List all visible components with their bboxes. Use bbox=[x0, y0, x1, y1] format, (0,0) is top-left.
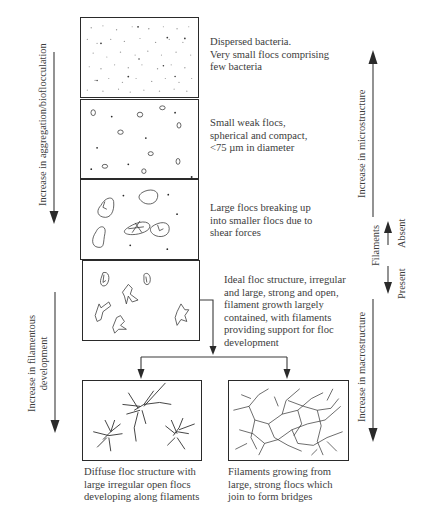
label-present: Present bbox=[396, 268, 408, 299]
label-filaments: Filaments bbox=[370, 225, 382, 266]
label-macrostructure: Increase in macrostructure bbox=[356, 312, 368, 422]
stage-box-small-weak-flocs bbox=[80, 99, 199, 179]
ideal-flocs-illustration bbox=[83, 261, 199, 340]
stage-description-filament-bridging: Filaments growing from large, strong flo… bbox=[228, 466, 333, 504]
stage-box-large-flocs-breaking bbox=[80, 179, 199, 260]
stage-description-ideal-floc: Ideal floc structure, irregular and larg… bbox=[224, 274, 346, 350]
filament-bridging-illustration bbox=[229, 381, 348, 460]
stage-box-dispersed-bacteria bbox=[80, 17, 199, 98]
stage-description-small-weak-flocs: Small weak flocs, spherical and compact,… bbox=[210, 117, 307, 155]
diagram-arrows bbox=[0, 0, 432, 524]
connector-ideal-to-branches bbox=[200, 300, 213, 350]
label-microstructure: Increase in microstructure bbox=[356, 90, 368, 198]
stage-box-ideal-floc bbox=[82, 260, 200, 341]
label-aggregation-bioflocculation: Increase in aggregation/bioflocculation bbox=[37, 43, 49, 206]
label-filamentous-development: Increase in filamentous development bbox=[26, 315, 50, 412]
large-flocs-illustration bbox=[81, 180, 198, 259]
dispersed-bacteria-illustration bbox=[81, 18, 198, 97]
stage-box-filament-bridging bbox=[228, 380, 349, 461]
small-flocs-illustration bbox=[81, 100, 198, 178]
stage-description-large-flocs: Large flocs breaking up into smaller flo… bbox=[210, 202, 312, 240]
diffuse-floc-illustration bbox=[83, 381, 201, 460]
stage-description-dispersed: Dispersed bacteria. Very small flocs com… bbox=[210, 36, 329, 74]
stage-description-diffuse-floc: Diffuse floc structure with large irregu… bbox=[84, 466, 199, 504]
label-absent: Absent bbox=[396, 219, 408, 248]
stage-box-diffuse-floc bbox=[82, 380, 202, 461]
